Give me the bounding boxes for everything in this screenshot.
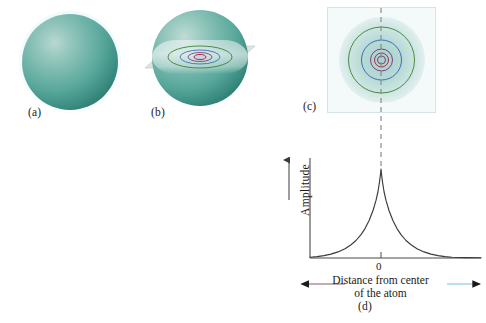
sphere-panel xyxy=(22,14,118,110)
panel-label-b: (b) xyxy=(151,106,165,118)
slice-contours-svg xyxy=(145,10,255,110)
contour-map-panel xyxy=(327,7,436,113)
x-axis-title: Distance from center of the atom xyxy=(275,274,486,300)
panel-label-c: (c) xyxy=(303,100,316,112)
x-axis-title-line1: Distance from center xyxy=(332,274,428,286)
sliced-sphere-panel xyxy=(145,10,255,110)
contour-blue xyxy=(362,40,402,80)
panel-label-a: (a) xyxy=(28,106,41,118)
slice-contour-red xyxy=(194,54,206,59)
orbital-sphere xyxy=(22,14,118,110)
orbital-figure: (a) (b) xyxy=(0,0,486,323)
contour-map-svg xyxy=(328,8,435,112)
x-axis-title-line2: of the atom xyxy=(275,287,486,300)
contour-purple xyxy=(371,49,393,71)
panel-label-d: (d) xyxy=(358,300,372,312)
y-axis-title: Amplitude xyxy=(299,134,311,246)
outer-contour-green xyxy=(349,27,415,93)
amplitude-plot-panel: 0 Amplitude Distance from center of the … xyxy=(275,148,486,323)
origin-tick-label: 0 xyxy=(376,260,382,272)
contour-red xyxy=(375,53,389,67)
inner-contour-purple xyxy=(378,56,386,64)
amplitude-curve xyxy=(310,169,481,258)
